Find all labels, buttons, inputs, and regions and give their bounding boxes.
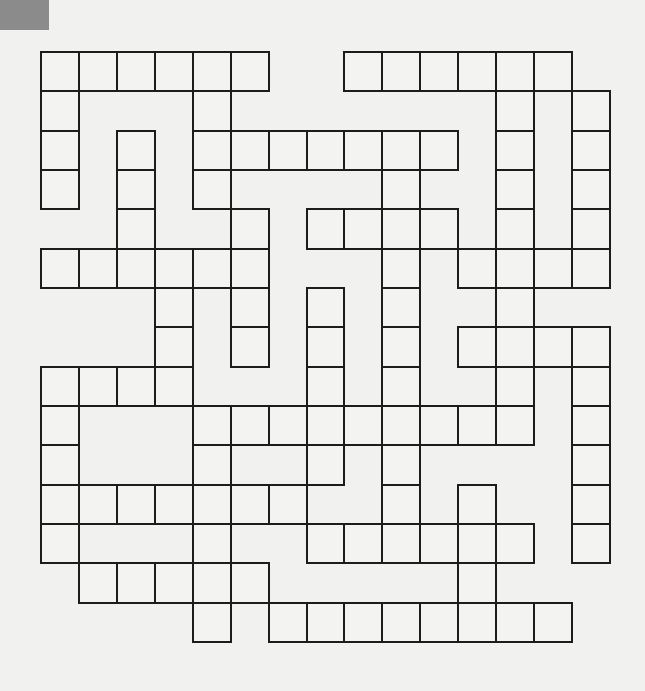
grid-cell-r6-c9[interactable] (381, 287, 421, 328)
grid-cell-r11-c2[interactable] (116, 484, 156, 525)
grid-cell-r2-c2[interactable] (116, 130, 156, 171)
grid-cell-r0-c10[interactable] (419, 51, 459, 92)
grid-cell-r2-c5[interactable] (230, 130, 270, 171)
grid-cell-r4-c5[interactable] (230, 208, 270, 249)
grid-cell-r11-c9[interactable] (381, 484, 421, 525)
grid-cell-r2-c9[interactable] (381, 130, 421, 171)
grid-cell-r13-c5[interactable] (230, 562, 270, 603)
grid-cell-r14-c10[interactable] (419, 602, 459, 643)
grid-cell-r12-c9[interactable] (381, 523, 421, 564)
grid-cell-r12-c14[interactable] (571, 523, 611, 564)
grid-cell-r0-c0[interactable] (40, 51, 80, 92)
grid-cell-r2-c7[interactable] (306, 130, 346, 171)
grid-cell-r12-c10[interactable] (419, 523, 459, 564)
grid-cell-r2-c6[interactable] (268, 130, 308, 171)
grid-cell-r10-c4[interactable] (192, 444, 232, 485)
grid-cell-r0-c12[interactable] (495, 51, 535, 92)
grid-cell-r11-c4[interactable] (192, 484, 232, 525)
grid-cell-r9-c10[interactable] (419, 405, 459, 446)
grid-cell-r7-c11[interactable] (457, 326, 497, 367)
grid-cell-r4-c8[interactable] (343, 208, 383, 249)
grid-cell-r14-c9[interactable] (381, 602, 421, 643)
grid-cell-r10-c0[interactable] (40, 444, 80, 485)
grid-cell-r8-c3[interactable] (154, 366, 194, 407)
grid-cell-r14-c13[interactable] (533, 602, 573, 643)
grid-cell-r2-c8[interactable] (343, 130, 383, 171)
grid-cell-r14-c4[interactable] (192, 602, 232, 643)
grid-cell-r7-c13[interactable] (533, 326, 573, 367)
grid-cell-r14-c7[interactable] (306, 602, 346, 643)
grid-cell-r7-c5[interactable] (230, 326, 270, 367)
grid-cell-r7-c7[interactable] (306, 326, 346, 367)
grid-cell-r7-c3[interactable] (154, 326, 194, 367)
grid-cell-r11-c3[interactable] (154, 484, 194, 525)
grid-cell-r7-c12[interactable] (495, 326, 535, 367)
grid-cell-r1-c12[interactable] (495, 90, 535, 131)
grid-cell-r2-c0[interactable] (40, 130, 80, 171)
grid-cell-r5-c12[interactable] (495, 248, 535, 289)
grid-cell-r8-c7[interactable] (306, 366, 346, 407)
grid-cell-r7-c9[interactable] (381, 326, 421, 367)
grid-cell-r5-c0[interactable] (40, 248, 80, 289)
grid-cell-r13-c3[interactable] (154, 562, 194, 603)
grid-cell-r14-c6[interactable] (268, 602, 308, 643)
grid-cell-r9-c12[interactable] (495, 405, 535, 446)
grid-cell-r8-c12[interactable] (495, 366, 535, 407)
grid-cell-r5-c14[interactable] (571, 248, 611, 289)
grid-cell-r11-c0[interactable] (40, 484, 80, 525)
grid-cell-r12-c4[interactable] (192, 523, 232, 564)
grid-cell-r4-c10[interactable] (419, 208, 459, 249)
grid-cell-r5-c4[interactable] (192, 248, 232, 289)
grid-cell-r0-c5[interactable] (230, 51, 270, 92)
grid-cell-r9-c9[interactable] (381, 405, 421, 446)
grid-cell-r0-c4[interactable] (192, 51, 232, 92)
grid-cell-r0-c11[interactable] (457, 51, 497, 92)
grid-cell-r8-c2[interactable] (116, 366, 156, 407)
grid-cell-r11-c14[interactable] (571, 484, 611, 525)
grid-cell-r9-c11[interactable] (457, 405, 497, 446)
grid-cell-r9-c14[interactable] (571, 405, 611, 446)
grid-cell-r5-c11[interactable] (457, 248, 497, 289)
grid-cell-r1-c14[interactable] (571, 90, 611, 131)
grid-cell-r6-c7[interactable] (306, 287, 346, 328)
grid-cell-r3-c0[interactable] (40, 169, 80, 210)
grid-cell-r0-c9[interactable] (381, 51, 421, 92)
grid-cell-r4-c9[interactable] (381, 208, 421, 249)
grid-cell-r4-c14[interactable] (571, 208, 611, 249)
grid-cell-r4-c2[interactable] (116, 208, 156, 249)
grid-cell-r9-c4[interactable] (192, 405, 232, 446)
grid-cell-r14-c12[interactable] (495, 602, 535, 643)
grid-cell-r11-c1[interactable] (78, 484, 118, 525)
grid-cell-r3-c12[interactable] (495, 169, 535, 210)
grid-cell-r0-c8[interactable] (343, 51, 383, 92)
grid-cell-r13-c11[interactable] (457, 562, 497, 603)
grid-cell-r2-c14[interactable] (571, 130, 611, 171)
grid-cell-r9-c5[interactable] (230, 405, 270, 446)
grid-cell-r14-c11[interactable] (457, 602, 497, 643)
grid-cell-r5-c2[interactable] (116, 248, 156, 289)
grid-cell-r5-c9[interactable] (381, 248, 421, 289)
grid-cell-r1-c0[interactable] (40, 90, 80, 131)
grid-cell-r0-c13[interactable] (533, 51, 573, 92)
grid-cell-r12-c7[interactable] (306, 523, 346, 564)
grid-cell-r12-c11[interactable] (457, 523, 497, 564)
grid-cell-r9-c0[interactable] (40, 405, 80, 446)
grid-cell-r2-c12[interactable] (495, 130, 535, 171)
grid-cell-r8-c9[interactable] (381, 366, 421, 407)
grid-cell-r8-c1[interactable] (78, 366, 118, 407)
grid-cell-r0-c1[interactable] (78, 51, 118, 92)
grid-cell-r13-c1[interactable] (78, 562, 118, 603)
grid-cell-r7-c14[interactable] (571, 326, 611, 367)
grid-cell-r6-c12[interactable] (495, 287, 535, 328)
grid-cell-r9-c6[interactable] (268, 405, 308, 446)
grid-cell-r6-c3[interactable] (154, 287, 194, 328)
grid-cell-r3-c14[interactable] (571, 169, 611, 210)
grid-cell-r12-c0[interactable] (40, 523, 80, 564)
grid-cell-r9-c7[interactable] (306, 405, 346, 446)
grid-cell-r10-c14[interactable] (571, 444, 611, 485)
grid-cell-r11-c6[interactable] (268, 484, 308, 525)
grid-cell-r11-c5[interactable] (230, 484, 270, 525)
grid-cell-r12-c12[interactable] (495, 523, 535, 564)
grid-cell-r14-c8[interactable] (343, 602, 383, 643)
grid-cell-r5-c3[interactable] (154, 248, 194, 289)
